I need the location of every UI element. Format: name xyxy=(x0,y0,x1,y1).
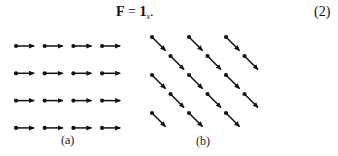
vector-shaft xyxy=(189,37,202,50)
vector-arrow-a xyxy=(14,44,34,48)
vector-origin-dot xyxy=(100,44,104,48)
vector-origin-dot xyxy=(187,111,191,115)
vector-arrow-b xyxy=(150,73,166,89)
vector-arrow-b xyxy=(150,111,166,127)
vector-arrow-b xyxy=(242,92,258,108)
vector-origin-dot xyxy=(150,73,154,77)
vector-origin-dot xyxy=(242,54,246,58)
vector-arrow-a xyxy=(14,71,34,75)
vector-arrow-a xyxy=(14,126,34,130)
vector-shaft xyxy=(226,75,239,88)
vector-shaft xyxy=(208,94,221,107)
vector-arrow-b xyxy=(242,54,258,70)
vector-origin-dot xyxy=(100,71,104,75)
panel-b-vector-field xyxy=(150,35,258,127)
vector-arrow-a xyxy=(43,99,63,103)
vector-arrow-a xyxy=(100,126,120,130)
vector-shaft xyxy=(171,56,184,69)
vector-shaft xyxy=(208,56,221,69)
vector-origin-dot xyxy=(187,35,191,39)
vector-shaft xyxy=(189,113,202,126)
vector-arrow-b xyxy=(187,73,203,89)
vector-origin-dot xyxy=(14,44,18,48)
vector-arrow-b xyxy=(205,92,221,108)
vector-shaft xyxy=(226,37,239,50)
vector-origin-dot xyxy=(14,71,18,75)
vector-arrow-a xyxy=(71,44,91,48)
vector-origin-dot xyxy=(205,92,209,96)
vector-arrow-b xyxy=(150,35,166,51)
vector-origin-dot xyxy=(71,126,75,130)
vector-origin-dot xyxy=(224,35,228,39)
vector-origin-dot xyxy=(205,54,209,58)
vector-shaft xyxy=(189,75,202,88)
vector-origin-dot xyxy=(71,99,75,103)
vector-arrow-a xyxy=(14,99,34,103)
vector-arrow-a xyxy=(71,126,91,130)
caption-a: (a) xyxy=(61,133,74,147)
caption-b: (b) xyxy=(196,134,210,148)
vector-shaft xyxy=(245,94,258,107)
vector-origin-dot xyxy=(224,73,228,77)
vector-origin-dot xyxy=(43,71,47,75)
vector-arrow-a xyxy=(100,71,120,75)
vector-arrow-a xyxy=(100,44,120,48)
vector-origin-dot xyxy=(168,54,172,58)
vector-arrow-a xyxy=(43,71,63,75)
panel-a-vector-field xyxy=(14,44,120,130)
vector-origin-dot xyxy=(14,99,18,103)
vector-origin-dot xyxy=(43,44,47,48)
vector-arrow-b xyxy=(224,111,240,127)
vector-origin-dot xyxy=(100,126,104,130)
vector-shaft xyxy=(152,113,165,126)
vector-origin-dot xyxy=(224,111,228,115)
vector-shaft xyxy=(226,113,239,126)
vector-origin-dot xyxy=(43,126,47,130)
vector-origin-dot xyxy=(150,111,154,115)
vector-origin-dot xyxy=(71,71,75,75)
vector-origin-dot xyxy=(43,99,47,103)
vector-origin-dot xyxy=(187,73,191,77)
vector-origin-dot xyxy=(100,99,104,103)
vector-arrow-b xyxy=(168,92,184,108)
vector-arrow-b xyxy=(187,35,203,51)
vector-arrow-b xyxy=(224,73,240,89)
vector-origin-dot xyxy=(242,92,246,96)
vector-arrow-b xyxy=(224,35,240,51)
vector-arrow-a xyxy=(43,126,63,130)
vector-arrow-a xyxy=(71,71,91,75)
vector-arrow-b xyxy=(205,54,221,70)
vector-arrow-a xyxy=(43,44,63,48)
vector-shaft xyxy=(152,75,165,88)
vector-arrow-a xyxy=(71,99,91,103)
vector-arrow-b xyxy=(187,111,203,127)
vector-shaft xyxy=(171,94,184,107)
vector-shaft xyxy=(245,56,258,69)
vector-shaft xyxy=(152,37,165,50)
vector-origin-dot xyxy=(71,44,75,48)
vector-field-figure xyxy=(0,0,338,156)
vector-origin-dot xyxy=(150,35,154,39)
vector-origin-dot xyxy=(14,126,18,130)
vector-arrow-a xyxy=(100,99,120,103)
vector-arrow-b xyxy=(168,54,184,70)
vector-origin-dot xyxy=(168,92,172,96)
